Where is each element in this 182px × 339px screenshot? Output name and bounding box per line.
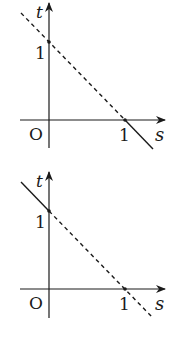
origin-label: O (29, 293, 43, 313)
origin-label: O (29, 124, 43, 144)
solid-line-segment (21, 182, 49, 211)
point-y-intercept (47, 209, 51, 213)
dashed-line-segment (49, 211, 153, 318)
graph-top: t s O 1 1 (20, 2, 165, 149)
point-x-intercept (123, 287, 127, 291)
x-axis-label: s (155, 124, 164, 145)
y-axis-label: t (36, 2, 43, 22)
y-tick-label: 1 (35, 212, 46, 232)
x-tick-label: 1 (119, 294, 130, 314)
graph-bottom: t s O 1 1 (20, 171, 165, 318)
point-x-intercept (123, 118, 127, 122)
dashed-line-segment (21, 13, 125, 120)
point-y-intercept (47, 40, 51, 44)
x-tick-label: 1 (119, 125, 130, 145)
y-axis-label: t (36, 171, 43, 191)
x-axis-label: s (155, 293, 164, 314)
diagram: t s O 1 1 t s O 1 1 (0, 0, 182, 339)
y-tick-label: 1 (35, 43, 46, 63)
